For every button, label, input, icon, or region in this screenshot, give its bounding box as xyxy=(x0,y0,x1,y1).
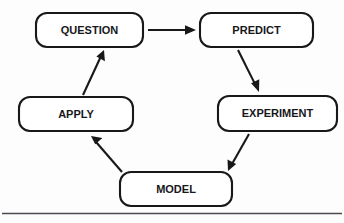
edge-apply-to-question xyxy=(83,50,105,95)
edge-predict-to-experiment xyxy=(238,50,259,92)
arrowhead-apply-question xyxy=(96,50,105,61)
edge-experiment-to-model xyxy=(228,134,250,171)
node-apply[interactable]: APPLY xyxy=(19,97,133,131)
edge-model-to-apply xyxy=(91,136,122,172)
arrowhead-question-predict xyxy=(185,25,196,35)
edge-question-to-predict xyxy=(148,25,196,35)
node-model[interactable]: MODEL xyxy=(120,172,232,206)
node-label-experiment: EXPERIMENT xyxy=(242,107,314,119)
node-label-predict: PREDICT xyxy=(232,24,281,36)
node-predict[interactable]: PREDICT xyxy=(200,13,313,47)
edge-line-experiment-model xyxy=(232,134,249,163)
node-label-apply: APPLY xyxy=(58,108,94,120)
edge-line-predict-experiment xyxy=(238,50,255,85)
cycle-diagram: QUESTION PREDICT EXPERIMENT APPLY MODEL xyxy=(0,0,344,223)
node-label-question: QUESTION xyxy=(61,24,119,36)
edge-line-model-apply xyxy=(95,141,122,172)
edge-line-apply-question xyxy=(83,57,101,95)
node-label-model: MODEL xyxy=(156,183,196,195)
arrowhead-predict-experiment xyxy=(251,79,259,92)
node-question[interactable]: QUESTION xyxy=(36,13,143,47)
arrowhead-experiment-model xyxy=(228,160,237,172)
diagram-canvas: QUESTION PREDICT EXPERIMENT APPLY MODEL xyxy=(0,0,344,223)
node-experiment[interactable]: EXPERIMENT xyxy=(218,96,337,131)
